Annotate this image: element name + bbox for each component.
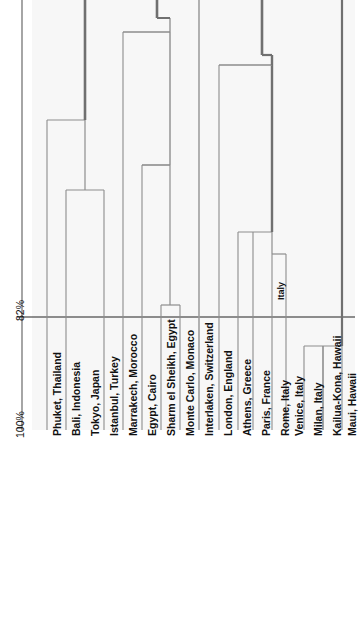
axis-tick-label-100: 100% — [14, 411, 26, 438]
leaf-label-12: Rome, Italy — [279, 380, 291, 436]
leaf-label-4: Marrakech, Morocco — [127, 334, 139, 436]
leaf-label-9: London, England — [222, 350, 234, 436]
leaf-label-8: Interlaken, Switzerland — [203, 322, 215, 436]
leaf-label-10: Athens, Greece — [241, 359, 253, 436]
leaf-label-13: Venice, Italy — [293, 376, 305, 436]
leaf-label-15: Kailua-Kona, Hawaii — [331, 336, 343, 436]
leaf-label-7: Monte Carlo, Monaco — [184, 330, 196, 436]
leaf-label-0: Phuket, Thailand — [51, 352, 63, 436]
leaf-label-2: Tokyo, Japan — [89, 370, 101, 436]
leaf-label-11: Paris, France — [260, 370, 272, 436]
leaf-label-5: Egypt, Cairo — [146, 374, 158, 436]
leaf-label-16: Maui, Hawaii — [346, 373, 358, 436]
branch-annotation-italy: Italy — [276, 282, 286, 300]
axis-tick-label-82: 82% — [14, 300, 26, 321]
leaf-label-14: Milan, Italy — [312, 382, 324, 436]
leaf-label-3: Istanbul, Turkey — [108, 356, 120, 436]
leaf-label-1: Bali, Indonesia — [70, 362, 82, 436]
leaf-label-6: Sharm el Sheikh, Egypt — [165, 319, 177, 436]
